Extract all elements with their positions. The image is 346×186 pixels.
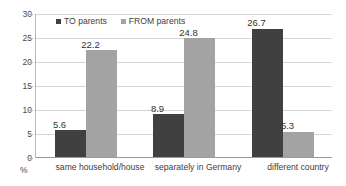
value-label-to-parents-different-country: 26.7 — [241, 18, 272, 28]
legend: TO parents FROM parents — [56, 17, 185, 26]
bar-from-parents-different-country[interactable] — [283, 132, 314, 157]
value-label-from-parents-different-country: 5.3 — [272, 121, 303, 131]
legend-item-to-parents[interactable]: TO parents — [56, 17, 107, 26]
bar-from-parents-separately-germany[interactable] — [184, 38, 215, 157]
value-label-to-parents-separately-germany: 8.9 — [142, 104, 173, 114]
legend-label-to-parents: TO parents — [64, 17, 107, 26]
bar-to-parents-same-household[interactable] — [55, 130, 86, 157]
y-tick-mark — [29, 62, 33, 63]
x-category-label-different-country: different country — [218, 162, 346, 172]
value-label-to-parents-same-household: 5.6 — [44, 120, 75, 130]
legend-swatch-icon — [121, 19, 126, 24]
gridline — [36, 14, 332, 15]
y-tick-mark — [29, 38, 33, 39]
bar-chart: 30 25 20 15 10 5 0 % 5.6 22.2 8. — [0, 0, 346, 186]
bar-to-parents-separately-germany[interactable] — [153, 114, 184, 157]
y-tick-mark — [29, 134, 33, 135]
legend-swatch-icon — [56, 19, 61, 24]
legend-label-from-parents: FROM parents — [129, 17, 185, 26]
value-label-from-parents-same-household: 22.2 — [75, 40, 106, 50]
y-tick-mark — [29, 110, 33, 111]
y-tick-mark — [29, 86, 33, 87]
bar-to-parents-different-country[interactable] — [252, 29, 283, 157]
y-tick-mark — [29, 158, 33, 159]
legend-item-from-parents[interactable]: FROM parents — [121, 17, 185, 26]
y-tick-mark — [29, 14, 33, 15]
value-label-from-parents-separately-germany: 24.8 — [173, 28, 204, 38]
bar-from-parents-same-household[interactable] — [86, 50, 117, 157]
